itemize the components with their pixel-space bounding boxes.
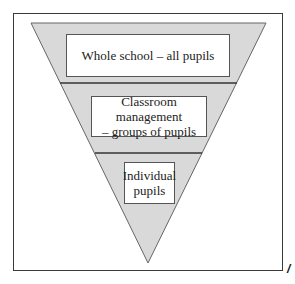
corner-mark: / [287,262,290,276]
level-box-whole-school: Whole school – all pupils [66,34,230,77]
level-label-classroom-line2: – groups of pupils [92,124,206,139]
level-box-classroom-management: Classroom management – groups of pupils [91,96,207,137]
level-box-individual: Individual pupils [124,162,175,204]
level-label-classroom-line1: Classroom management [92,94,206,124]
level-label-individual-line2: pupils [123,183,176,198]
level-label-individual-line1: Individual [123,168,176,183]
level-label-whole-school: Whole school – all pupils [82,48,215,63]
